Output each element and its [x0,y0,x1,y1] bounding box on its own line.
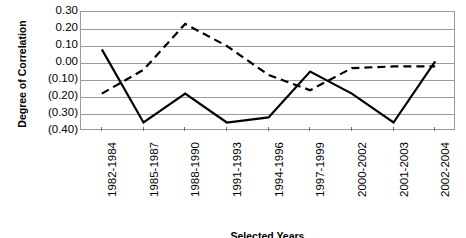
x-tickmark [309,127,310,131]
y-axis-title: Degree of Correlation [16,8,30,140]
x-tickmark [143,127,144,131]
y-tick-label: (0.10) [30,73,78,84]
x-tickmark [393,127,394,131]
series-lines [81,12,456,131]
x-tick-label: 2000-2002 [356,142,368,197]
y-tick-label: 0.00 [30,56,78,67]
x-tickmark [351,127,352,131]
x-tick-label: 1994-1996 [273,142,285,197]
x-tick-label: 1997-1999 [314,142,326,197]
x-tick-label: 1985-1987 [148,142,160,197]
x-tick-label: 1991-1993 [231,142,243,197]
x-tick-label: 2002-2004 [439,142,451,197]
x-tickmark [434,127,435,131]
x-tick-label: 1988-1990 [189,142,201,197]
x-tick-label: 1982-1984 [106,142,118,197]
y-axis-tick-labels: 0.300.200.100.00(0.10)(0.20)(0.30)(0.40) [30,0,78,150]
x-tickmark [226,127,227,131]
y-tick-label: (0.30) [30,107,78,118]
series-line-solid [102,49,435,122]
y-tick-label: (0.40) [30,124,78,135]
y-tick-label: 0.30 [30,5,78,16]
x-tickmark [101,127,102,131]
x-axis-tick-labels: 1982-19841985-19871988-19901991-19931994… [80,131,455,238]
y-tick-label: 0.20 [30,22,78,33]
series-line-dashed [102,24,435,94]
x-tick-label: 2001-2003 [398,142,410,197]
x-axis-title: Selected Years [80,231,455,238]
x-tickmark [268,127,269,131]
correlation-line-chart: Degree of Correlation 0.300.200.100.00(0… [0,0,466,238]
y-tick-label: (0.20) [30,90,78,101]
x-tickmark [184,127,185,131]
y-tick-label: 0.10 [30,39,78,50]
plot-area [80,11,455,130]
